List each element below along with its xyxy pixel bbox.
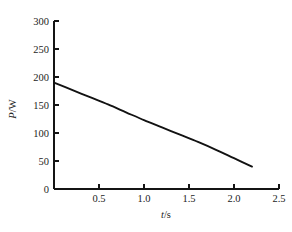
- y-axis-title: P/W: [7, 99, 18, 119]
- y-tick-marks: [54, 21, 59, 189]
- y-tick-label-200: 200: [33, 72, 49, 83]
- x-tick-labels: 0.5 1.0 1.5 2.0 2.5: [92, 193, 285, 204]
- chart-figure: 0 50 100 150 200 250 300 0.5 1.0 1.5 2.0…: [0, 0, 292, 232]
- y-tick-label-100: 100: [33, 128, 49, 139]
- plot-area: 0 50 100 150 200 250 300 0.5 1.0 1.5 2.0…: [0, 0, 292, 232]
- y-tick-label-50: 50: [39, 156, 50, 167]
- x-tick-marks: [99, 184, 279, 189]
- y-tick-labels: 0 50 100 150 200 250 300: [33, 16, 49, 195]
- y-axis-title-unit: /W: [7, 99, 18, 112]
- x-axis-title: t/s: [161, 209, 171, 220]
- x-axis-title-unit: /s: [164, 209, 171, 220]
- data-line-power: [54, 83, 252, 167]
- y-tick-label-250: 250: [33, 44, 49, 55]
- x-tick-label-2-5: 2.5: [272, 193, 285, 204]
- y-tick-label-0: 0: [44, 184, 49, 195]
- y-tick-label-300: 300: [33, 16, 49, 27]
- x-tick-label-2-0: 2.0: [227, 193, 240, 204]
- x-tick-label-0-5: 0.5: [92, 193, 105, 204]
- x-tick-label-1-0: 1.0: [137, 193, 150, 204]
- x-tick-label-1-5: 1.5: [182, 193, 195, 204]
- y-tick-label-150: 150: [33, 100, 49, 111]
